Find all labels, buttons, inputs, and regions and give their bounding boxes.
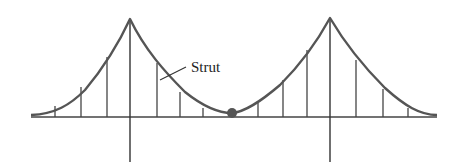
cable-curve — [31, 18, 437, 115]
diagram-canvas — [0, 0, 456, 167]
strut-label: Strut — [191, 60, 220, 75]
bridge-diagram: Strut — [0, 0, 456, 167]
joint-dot — [227, 108, 237, 118]
